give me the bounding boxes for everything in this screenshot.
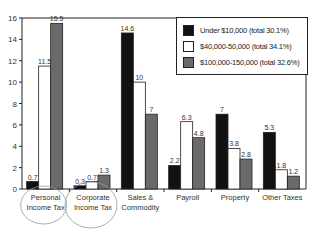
- legend-label: Under $10,000 (total 30.1%): [200, 26, 289, 35]
- legend-label: $40,000-50,000 (total 34.1%): [200, 42, 292, 51]
- legend-item-40000-50000: $40,000-50,000 (total 34.1%): [183, 40, 292, 52]
- y-tick-label: 2: [13, 164, 18, 173]
- bar-value-label: 15.5: [50, 15, 64, 22]
- y-tick-label: 8: [13, 100, 18, 109]
- legend-swatch-white: [183, 41, 194, 52]
- legend-label: $100,000-150,000 (total 32.6%): [200, 58, 300, 67]
- legend-swatch-gray: [183, 57, 194, 68]
- legend-item-under-10000: Under $10,000 (total 30.1%): [183, 24, 289, 36]
- bar-value-label: 5.3: [264, 124, 274, 131]
- x-category-label: Property: [221, 193, 250, 202]
- bar-value-label: 6.3: [182, 114, 192, 121]
- bar: [133, 82, 145, 189]
- bar: [263, 132, 275, 189]
- x-category-label: Corporate: [76, 193, 109, 202]
- bar-value-label: 1.3: [99, 167, 109, 174]
- x-category-label: Commodity: [121, 203, 159, 212]
- bar-value-label: 10: [135, 74, 143, 81]
- y-tick-label: 12: [8, 57, 17, 66]
- bar: [287, 176, 299, 189]
- legend-item-100000-150000: $100,000-150,000 (total 32.6%): [183, 56, 300, 68]
- bar-value-label: 1.8: [276, 162, 286, 169]
- bar: [181, 122, 193, 189]
- x-category-label: Income Tax: [27, 203, 65, 212]
- y-tick-label: 16: [8, 14, 17, 23]
- bar-value-label: 2.8: [241, 151, 251, 158]
- bar: [228, 148, 240, 189]
- bar-value-label: 3.8: [229, 140, 239, 147]
- y-tick-label: 0: [13, 185, 18, 194]
- bar-value-label: 4.8: [194, 130, 204, 137]
- x-category-label: Payroll: [176, 193, 199, 202]
- bar: [193, 138, 205, 189]
- bar: [275, 170, 287, 189]
- x-category-label: Other Taxes: [262, 193, 303, 202]
- bar: [121, 33, 133, 189]
- y-tick-label: 10: [8, 78, 17, 87]
- bar-value-label: 2.2: [170, 157, 180, 164]
- bar: [169, 165, 181, 189]
- bar-value-label: 7: [220, 106, 224, 113]
- x-category-label: Personal: [31, 193, 61, 202]
- bar-value-label: 11.5: [38, 58, 51, 65]
- chart-legend: Under $10,000 (total 30.1%) $40,000-50,0…: [176, 17, 308, 75]
- x-category-label: Sales &: [127, 193, 153, 202]
- y-tick-label: 4: [13, 142, 18, 151]
- y-tick-label: 14: [8, 35, 17, 44]
- bar-value-label: 1.2: [288, 168, 298, 175]
- bar: [145, 114, 157, 189]
- bar-value-label: 0.7: [28, 174, 38, 181]
- y-tick-label: 6: [13, 121, 18, 130]
- bar: [240, 159, 252, 189]
- bar-value-label: 0.7: [87, 174, 97, 181]
- bar-value-label: 14.6: [121, 25, 135, 32]
- x-category-label: Income Tax: [74, 203, 112, 212]
- bar: [39, 66, 51, 189]
- bar-value-label: 7: [149, 106, 153, 113]
- bar: [216, 114, 228, 189]
- legend-swatch-black: [183, 25, 194, 36]
- bar: [98, 175, 110, 189]
- bar: [51, 23, 63, 189]
